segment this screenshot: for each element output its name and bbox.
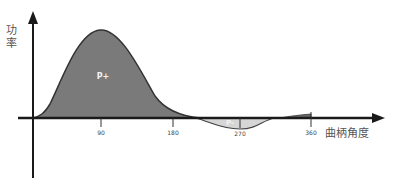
positive-work-area (33, 30, 200, 118)
negative-work-area (196, 118, 275, 129)
tick-label-270: 270 (234, 130, 245, 137)
y-axis-arrow-icon (28, 11, 38, 24)
y-axis-label: 功率 (4, 24, 18, 50)
negative-work-label: P- (226, 119, 234, 127)
x-axis-arrow-icon (372, 113, 385, 123)
x-axis-label: 曲柄角度 (325, 124, 369, 140)
power-curve-chart (0, 0, 393, 188)
positive-work-label: P+ (97, 72, 110, 81)
tick-label-90: 90 (97, 129, 105, 136)
tick-label-360: 360 (305, 129, 316, 136)
tick-label-180: 180 (167, 129, 178, 136)
